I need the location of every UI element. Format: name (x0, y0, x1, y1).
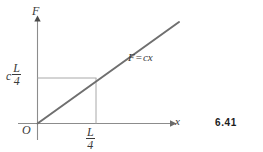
figure-container: F x O c L 4 L 4 F=cx 6.41 (0, 0, 263, 152)
x-tick-fraction: L 4 (86, 126, 95, 151)
origin-label: O (22, 124, 31, 136)
figure-number: 6.41 (215, 117, 237, 128)
equation-lhs: F (128, 51, 135, 63)
y-tick-denominator: 4 (12, 75, 21, 87)
y-tick-fraction: L 4 (12, 62, 21, 87)
equation-rhs: cx (143, 51, 153, 63)
y-tick-numerator: L (12, 62, 21, 75)
force-line-curve (38, 22, 180, 124)
y-axis-label: F (32, 5, 39, 17)
x-tick-denominator: 4 (86, 139, 95, 151)
y-axis-tick-label: c L 4 (6, 62, 21, 87)
x-axis-label: x (175, 116, 180, 127)
x-axis-tick-label: L 4 (86, 126, 95, 151)
equation-operator: = (135, 51, 143, 63)
line-equation-label: F=cx (128, 52, 153, 63)
x-tick-numerator: L (86, 126, 95, 139)
plot-canvas (0, 0, 263, 152)
y-tick-coefficient: c (6, 70, 11, 82)
